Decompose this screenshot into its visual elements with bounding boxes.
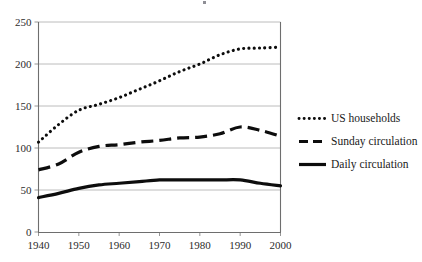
- series-line-daily-circulation: [39, 180, 281, 198]
- legend: US households Sunday circulation Daily c…: [299, 112, 418, 171]
- legend-item-label: Daily circulation: [331, 158, 409, 171]
- x-axis-tick-label: 1990: [229, 239, 252, 251]
- y-axis-tick-label: 50: [21, 184, 33, 196]
- series-line-us-households: [39, 47, 281, 142]
- x-axis-tick-label: 1970: [149, 239, 172, 251]
- y-axis-tick-label: 100: [15, 142, 32, 154]
- line-chart: 050100150200250 194019501960197019801990…: [0, 0, 422, 262]
- x-axis-tick-label: 2000: [270, 239, 293, 251]
- legend-item-label: US households: [331, 112, 401, 124]
- x-axis-tick-label: 1940: [28, 239, 51, 251]
- y-axis-tick-label: 250: [15, 16, 32, 28]
- x-axis-tick-labels: 1940195019601970198019902000: [28, 239, 293, 251]
- x-axis-tick-label: 1960: [108, 239, 131, 251]
- legend-item-label: Sunday circulation: [331, 135, 418, 148]
- y-axis-tick-labels: 050100150200250: [15, 16, 32, 238]
- legend-item-us-households[interactable]: US households: [299, 112, 401, 124]
- y-axis-tick-marks: [35, 22, 39, 232]
- legend-item-sunday-circulation[interactable]: Sunday circulation: [299, 135, 418, 148]
- legend-item-daily-circulation[interactable]: Daily circulation: [299, 158, 409, 171]
- chart-canvas: 050100150200250 194019501960197019801990…: [0, 0, 422, 262]
- x-axis-tick-label: 1980: [189, 239, 212, 251]
- x-axis-tick-label: 1950: [68, 239, 91, 251]
- y-axis-tick-label: 0: [26, 226, 32, 238]
- cropped-title-remnant: [203, 1, 206, 4]
- y-axis-tick-label: 200: [15, 58, 32, 70]
- y-axis-tick-label: 150: [15, 100, 32, 112]
